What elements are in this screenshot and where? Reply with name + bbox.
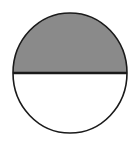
half-shaded-circle-figure xyxy=(0,0,137,144)
figure-canvas xyxy=(0,0,137,144)
circle-upper-half-shaded xyxy=(0,0,137,73)
